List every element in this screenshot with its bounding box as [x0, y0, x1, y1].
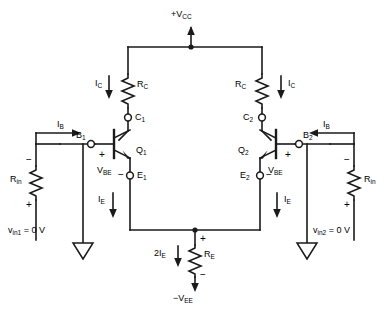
terminal-b1 [88, 141, 95, 148]
vcc-arrowhead [187, 26, 195, 35]
circuit-diagram-figure: +VCC −VEE RC RC IC IC C1 C2 Q1 Q2 B1 B2 … [0, 0, 384, 313]
left-input-resistor-body [30, 166, 42, 200]
right-collector-resistor-body [256, 74, 268, 108]
left-ground-symbol [73, 243, 93, 259]
right-emitter-current-label: IE [284, 195, 291, 204]
left-vbe-plus: + [99, 150, 105, 160]
left-ie-arrowhead [109, 209, 117, 218]
emitter-junction-dot [192, 227, 197, 232]
left-input-source-label: vin1 = 0 V [8, 226, 45, 235]
left-transistor-label: Q1 [136, 146, 147, 155]
right-base-current-label: IB [323, 120, 330, 129]
emitter-resistor-plus: + [200, 234, 206, 244]
right-input-source-label: vin2 = 0 V [313, 226, 350, 235]
right-ground-symbol [297, 243, 317, 259]
terminal-e1-label: E1 [137, 171, 147, 180]
terminal-b1-label: B1 [76, 131, 86, 140]
left-ic-arrowhead [105, 90, 113, 99]
right-input-resistor-body [348, 166, 360, 200]
left-input-resistor-plus: + [26, 200, 32, 210]
terminal-c2 [259, 114, 266, 121]
terminal-c1-label: C1 [135, 113, 145, 122]
right-input-resistor-plus: + [344, 200, 350, 210]
emitter-resistor-label: RE [204, 250, 215, 259]
left-collector-resistor-body [122, 74, 134, 108]
left-base-current-label: IB [57, 120, 64, 129]
right-ie-arrowhead [273, 209, 281, 218]
emitter-total-arrowhead [174, 258, 182, 267]
vee-label: −VEE [173, 294, 193, 303]
terminal-c1 [125, 114, 132, 121]
right-transistor-label: Q2 [238, 146, 249, 155]
right-ic-arrowhead [277, 90, 285, 99]
emitter-resistor-minus: − [200, 270, 206, 280]
terminal-e2-label: E2 [240, 171, 250, 180]
right-input-resistor-label: Rin [364, 175, 376, 184]
left-vbe-minus: − [118, 170, 124, 180]
right-input-resistor-minus: − [344, 155, 350, 165]
left-emitter-current-label: IE [98, 195, 105, 204]
terminal-e2 [257, 172, 264, 179]
left-input-resistor-minus: − [26, 155, 32, 165]
vee-arrowhead [191, 283, 199, 292]
terminal-c2-label: C2 [243, 113, 253, 122]
left-collector-current-label: IC [95, 79, 102, 88]
terminal-b2 [296, 141, 303, 148]
left-input-resistor-label: Rin [10, 175, 22, 184]
left-vbe-label: VBE [97, 166, 112, 175]
right-vbe-plus: + [285, 150, 291, 160]
right-collector-current-label: IC [288, 79, 295, 88]
terminal-e1 [127, 172, 134, 179]
vcc-label: +VCC [171, 10, 192, 19]
right-collector-resistor-label: RC [235, 80, 246, 89]
left-collector-resistor-label: RC [137, 80, 148, 89]
emitter-total-current-label: 2IE [154, 249, 166, 258]
terminal-b2-label: B2 [303, 131, 313, 140]
schematic-canvas [0, 0, 384, 313]
right-vbe-minus: − [266, 170, 272, 180]
vcc-junction-dot [188, 44, 193, 49]
